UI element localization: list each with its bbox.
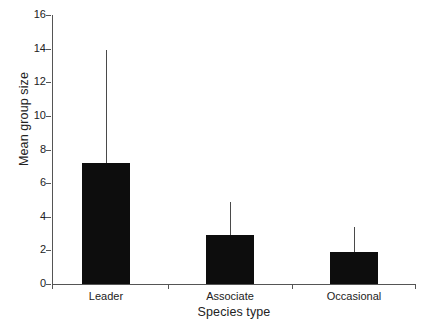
x-tick-mark-1 <box>168 284 169 289</box>
x-axis-title: Species type <box>52 305 416 319</box>
y-tick-12: 12 <box>22 82 46 83</box>
y-tick-4: 4 <box>22 217 46 218</box>
y-tick-10: 10 <box>22 116 46 117</box>
bar-occasional <box>330 252 378 284</box>
error-bar-occasional <box>354 227 355 252</box>
y-tick-14: 14 <box>22 49 46 50</box>
y-tick-mark <box>46 49 51 50</box>
x-tick-label-associate: Associate <box>168 290 292 302</box>
x-tick-mark-2 <box>292 284 293 289</box>
y-tick-8: 8 <box>22 150 46 151</box>
y-tick-mark <box>46 150 51 151</box>
x-tick-mark-0 <box>52 284 53 289</box>
y-tick-mark <box>46 82 51 83</box>
x-axis-line <box>52 284 416 285</box>
y-tick-mark <box>46 183 51 184</box>
y-axis-line <box>52 15 53 285</box>
y-tick-mark <box>46 250 51 251</box>
bar-chart: Mean group size 16 14 12 10 8 6 4 2 0 <box>0 0 426 324</box>
x-tick-label-occasional: Occasional <box>292 290 416 302</box>
bar-leader <box>82 163 130 284</box>
bar-associate <box>206 235 254 284</box>
y-tick-mark <box>46 217 51 218</box>
y-tick-mark <box>46 15 51 16</box>
y-tick-16: 16 <box>22 15 46 16</box>
y-tick-6: 6 <box>22 183 46 184</box>
x-axis-end-cap <box>415 284 416 289</box>
x-tick-label-leader: Leader <box>44 290 168 302</box>
y-tick-mark <box>46 284 51 285</box>
y-tick-2: 2 <box>22 250 46 251</box>
y-tick-mark <box>46 116 51 117</box>
y-tick-0: 0 <box>22 284 46 285</box>
error-bar-leader <box>106 50 107 163</box>
error-bar-associate <box>230 202 231 236</box>
